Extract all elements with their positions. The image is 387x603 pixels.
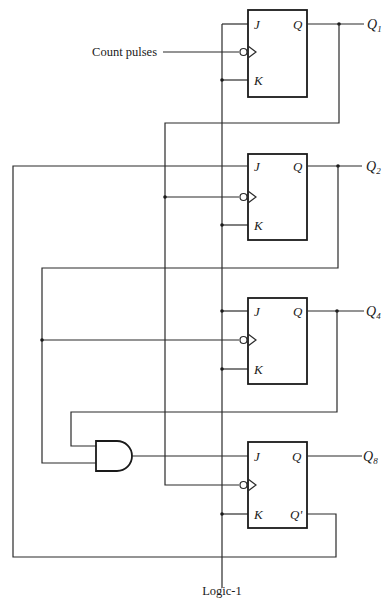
flip-flop-3: J K Q xyxy=(240,298,307,384)
flip-flop-1: J K Q xyxy=(240,10,307,97)
svg-text:K: K xyxy=(253,362,264,377)
q4-label: Q4 xyxy=(366,304,381,321)
svg-text:K: K xyxy=(253,507,264,522)
logic-1-label: Logic-1 xyxy=(202,584,242,598)
svg-text:Q: Q xyxy=(293,304,303,319)
count-pulses-label: Count pulses xyxy=(92,45,157,59)
q8-label: Q8 xyxy=(363,449,378,466)
logic-1-bus xyxy=(220,24,248,588)
flip-flop-2: J K Q xyxy=(240,154,307,240)
svg-text:Q: Q xyxy=(292,449,302,464)
clock-bubble-icon xyxy=(240,337,247,344)
svg-text:K: K xyxy=(253,73,264,88)
clock-bubble-icon xyxy=(240,482,247,489)
counter-circuit-diagram: Logic-1 Count pulses J K Q Q1 J K Q Q2 xyxy=(0,0,387,603)
svg-text:Q': Q' xyxy=(290,507,302,522)
and-gate xyxy=(96,441,132,471)
flip-flop-4: J K Q Q' xyxy=(240,442,307,528)
svg-text:Q: Q xyxy=(293,17,303,32)
svg-text:K: K xyxy=(253,218,264,233)
q1-label: Q1 xyxy=(367,17,382,34)
svg-text:Q: Q xyxy=(293,159,303,174)
clock-bubble-icon xyxy=(240,49,247,56)
clock-bubble-icon xyxy=(240,194,247,201)
q2-label: Q2 xyxy=(366,159,381,176)
